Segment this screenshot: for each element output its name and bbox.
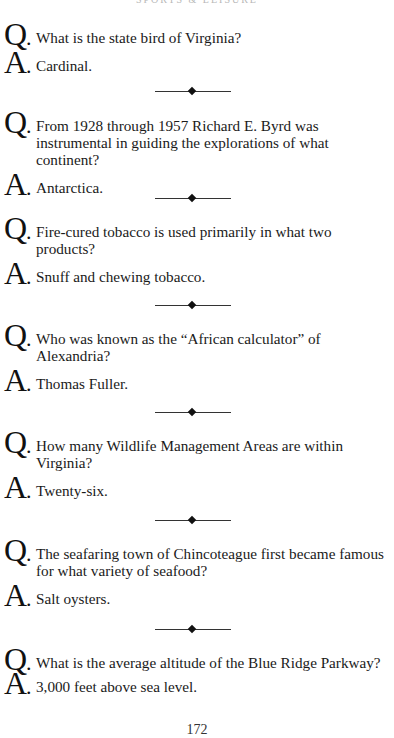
question: Q. Fire-cured tobacco is used primarily … <box>4 214 388 257</box>
answer: A. Thomas Fuller. <box>4 366 388 392</box>
q-label: Q. <box>4 108 32 140</box>
a-label: A. <box>4 366 32 398</box>
q-label: Q. <box>4 536 32 568</box>
question-text: Who was known as the “African calculator… <box>36 321 388 364</box>
diamond-rule-icon <box>155 624 231 636</box>
qa-item: Q. From 1928 through 1957 Richard E. Byr… <box>4 108 388 196</box>
diamond-rule-icon <box>155 515 231 527</box>
diamond-rule-icon <box>155 300 231 312</box>
answer: A. Cardinal. <box>4 48 388 74</box>
running-head: SPORTS & LEISURE <box>0 0 394 5</box>
question-text: The seafaring town of Chincoteague first… <box>36 536 388 579</box>
diamond-rule-icon <box>155 86 231 98</box>
qa-item: Q. What is the state bird of Virginia? A… <box>4 20 388 74</box>
a-label: A. <box>4 669 32 701</box>
page-number: 172 <box>0 722 394 738</box>
question-text: What is the state bird of Virginia? <box>36 20 388 46</box>
answer-text: Salt oysters. <box>36 581 388 607</box>
a-label: A. <box>4 170 32 202</box>
q-label: Q. <box>4 428 32 460</box>
question: Q. Who was known as the “African calcula… <box>4 321 388 364</box>
a-label: A. <box>4 581 32 613</box>
question-text: Fire-cured tobacco is used primarily in … <box>36 214 388 257</box>
question-text: What is the average altitude of the Blue… <box>36 645 388 671</box>
a-label: A. <box>4 473 32 505</box>
question-text: From 1928 through 1957 Richard E. Byrd w… <box>36 108 388 168</box>
answer-text: 3,000 feet above sea level. <box>36 669 388 695</box>
q-label: Q. <box>4 214 32 246</box>
question-text: How many Wildlife Management Areas are w… <box>36 428 388 471</box>
answer: A. 3,000 feet above sea level. <box>4 669 388 695</box>
qa-item: Q. Who was known as the “African calcula… <box>4 321 388 392</box>
answer: A. Snuff and chewing tobacco. <box>4 259 388 285</box>
qa-item: Q. How many Wildlife Management Areas ar… <box>4 428 388 499</box>
answer-text: Twenty-six. <box>36 473 388 499</box>
diamond-rule-icon <box>155 193 231 205</box>
a-label: A. <box>4 48 32 80</box>
answer-text: Cardinal. <box>36 48 388 74</box>
question: Q. What is the state bird of Virginia? <box>4 20 388 46</box>
diamond-rule-icon <box>155 407 231 419</box>
question: Q. The seafaring town of Chincoteague fi… <box>4 536 388 579</box>
answer: A. Salt oysters. <box>4 581 388 607</box>
qa-item: Q. Fire-cured tobacco is used primarily … <box>4 214 388 285</box>
a-label: A. <box>4 259 32 291</box>
answer-text: Snuff and chewing tobacco. <box>36 259 388 285</box>
qa-item: Q. The seafaring town of Chincoteague fi… <box>4 536 388 607</box>
qa-item: Q. What is the average altitude of the B… <box>4 645 388 695</box>
answer: A. Twenty-six. <box>4 473 388 499</box>
q-label: Q. <box>4 321 32 353</box>
question: Q. What is the average altitude of the B… <box>4 645 388 671</box>
question: Q. How many Wildlife Management Areas ar… <box>4 428 388 471</box>
question: Q. From 1928 through 1957 Richard E. Byr… <box>4 108 388 168</box>
answer-text: Thomas Fuller. <box>36 366 388 392</box>
